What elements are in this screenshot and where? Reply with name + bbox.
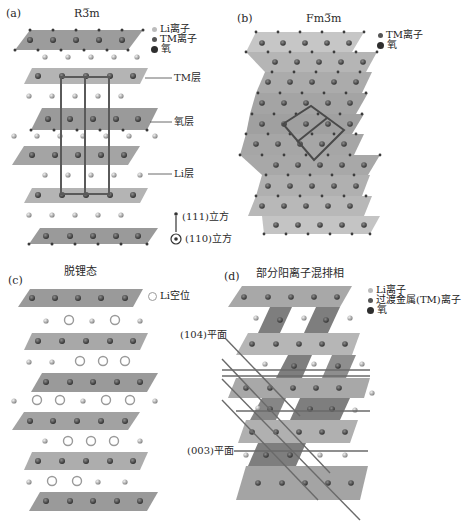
panel-a-diagram <box>11 29 181 246</box>
li-layer-label: Li层 <box>174 169 194 179</box>
legend-li-vacancy: Li空位 <box>148 291 190 301</box>
oxygen-layer-label: 氧层 <box>174 117 194 127</box>
legend-oxygen: 氧 <box>377 40 397 50</box>
legend-label: 氧 <box>387 40 397 50</box>
legend-tm-ion: TM离子 <box>152 34 197 44</box>
oxygen-icon <box>367 307 374 314</box>
oxygen-icon <box>377 42 384 49</box>
li-vacancy-icon <box>148 292 157 301</box>
panel-d-title: 部分阳离子混排相 <box>256 268 344 279</box>
plane-003-label: (003)平面 <box>187 446 234 456</box>
plane-104-label: (104)平面 <box>180 330 227 340</box>
tm-ion-icon <box>152 37 157 42</box>
panel-d-diagram <box>222 286 375 520</box>
panel-d-tag: (d) <box>224 271 240 282</box>
panel-c-diagram <box>11 289 158 511</box>
tm-ion-icon <box>378 33 383 38</box>
crystal-structure-figure <box>0 0 468 526</box>
direction-110-label: (110)立方 <box>185 234 232 244</box>
legend-label: 过渡金属(TM)离子 <box>376 295 461 305</box>
tm-ion-icon <box>368 298 373 303</box>
oxygen-icon <box>151 46 158 53</box>
direction-marker <box>171 212 181 244</box>
li-ion-icon <box>152 27 157 32</box>
legend-label: Li空位 <box>160 291 190 301</box>
tm-layer-label: TM层 <box>174 73 201 83</box>
li-ion-icon <box>368 288 373 293</box>
legend-oxygen: 氧 <box>151 44 171 54</box>
legend-oxygen: 氧 <box>367 305 387 315</box>
legend-tm-ion: TM离子 <box>378 30 423 40</box>
panel-b-title: Fm3̅m <box>306 13 342 24</box>
panel-c-title: 脱锂态 <box>64 266 97 277</box>
panel-a-title: R3̅m <box>74 8 100 19</box>
legend-label: 氧 <box>161 44 171 54</box>
panel-b-tag: (b) <box>237 13 253 24</box>
legend-label: 氧 <box>377 305 387 315</box>
panel-c-tag: (c) <box>8 275 23 286</box>
panel-b-diagram <box>239 31 382 236</box>
panel-a-tag: (a) <box>6 8 21 19</box>
direction-111-label: (111)立方 <box>182 212 229 222</box>
